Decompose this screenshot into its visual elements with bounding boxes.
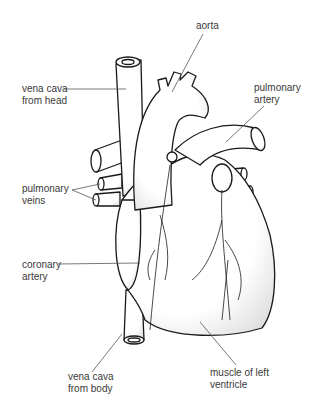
right-auricle-tip [167,152,177,162]
label-pulmonary-veins: pulmonary veins [22,183,69,207]
label-vena-cava-body: vena cava from body [68,371,114,395]
label-aorta: aorta [196,20,219,32]
left-auricle [212,164,232,192]
label-coronary-artery: coronary artery [22,259,61,283]
label-pulmonary-artery: pulmonary artery [254,82,301,106]
label-vena-cava-head: vena cava from head [22,83,68,107]
pulmonary-veins-left [91,140,124,206]
label-muscle-left-ventricle: muscle of left ventricle [210,367,269,391]
